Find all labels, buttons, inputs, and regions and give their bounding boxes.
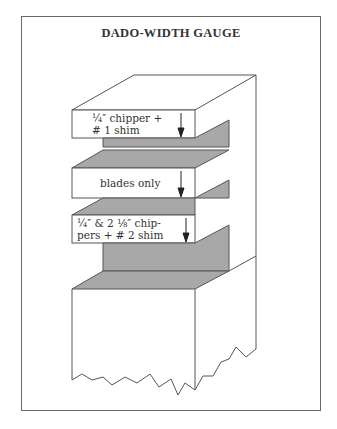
- step-3-label-line2: pers + # 2 shim: [77, 229, 163, 241]
- dado-gauge-drawing: [0, 0, 337, 429]
- step-1-label-line1: ¼″ chipper +: [92, 112, 162, 124]
- step-3-label-line1: ¼″ & 2 ⅛″ chip-: [77, 217, 163, 229]
- step-1-label: ¼″ chipper + # 1 shim: [92, 112, 162, 136]
- step-1-label-line2: # 1 shim: [92, 124, 162, 136]
- step-3-label: ¼″ & 2 ⅛″ chip- pers + # 2 shim: [77, 217, 163, 241]
- step-1-shade-floor: [72, 150, 229, 168]
- broken-edge: [72, 330, 256, 395]
- step-2-label-line1: blades only: [100, 177, 160, 189]
- gauge-top-surface: [72, 75, 256, 110]
- step-3-shade-floor: [72, 271, 229, 289]
- step-2-label: blades only: [100, 177, 160, 189]
